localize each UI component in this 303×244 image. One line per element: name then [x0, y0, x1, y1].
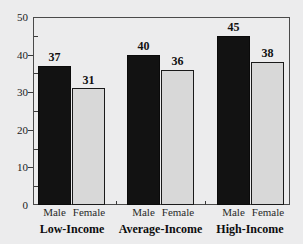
x-tick-separator-2	[205, 201, 206, 205]
bar-value-low-income-female: 31	[67, 73, 110, 88]
x-tick-separator-1	[116, 201, 117, 205]
x-sub-label-low-income-female: Female	[66, 206, 112, 218]
bar-average-income-female	[161, 70, 194, 205]
y-tick-label-50: 50	[17, 11, 28, 23]
bar-value-high-income-female: 38	[246, 46, 289, 61]
y-tick-label-10: 10	[17, 161, 28, 173]
bar-value-high-income-male: 45	[212, 20, 255, 35]
x-axis-sub-labels: Male Female Male Female Male Female	[33, 206, 290, 222]
x-sub-label-high-income-female: Female	[245, 206, 291, 218]
group-label-average-income: Average-Income	[118, 222, 203, 237]
x-sub-label-average-income-female: Female	[155, 206, 201, 218]
bar-chart: 50 40 30 20 10 0 37 31 40 36 45 38	[0, 0, 303, 244]
y-tick-label-0: 0	[23, 199, 29, 211]
bars-layer: 37 31 40 36 45 38	[33, 17, 290, 205]
bar-high-income-female	[251, 62, 284, 205]
group-label-high-income: High-Income	[209, 222, 291, 237]
x-axis-group-labels: Low-Income Average-Income High-Income	[33, 222, 290, 240]
y-tick-label-20: 20	[17, 124, 28, 136]
bar-value-average-income-male: 40	[122, 39, 165, 54]
bar-value-low-income-male: 37	[33, 50, 76, 65]
y-axis: 50 40 30 20 10 0	[0, 0, 33, 244]
bar-value-average-income-female: 36	[156, 54, 199, 69]
y-tick-label-30: 30	[17, 86, 28, 98]
bar-average-income-male	[127, 55, 160, 205]
y-tick-label-40: 40	[17, 49, 28, 61]
group-label-low-income: Low-Income	[33, 222, 111, 237]
bar-low-income-female	[72, 88, 105, 205]
